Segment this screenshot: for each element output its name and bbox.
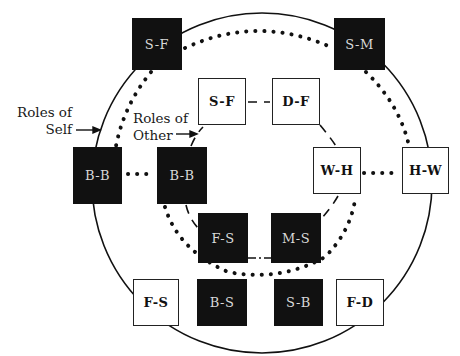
node-inner-fs: F-S — [198, 213, 248, 263]
node-label: D-F — [282, 94, 310, 109]
label-other-line2: Other — [133, 127, 188, 144]
node-label: F-S — [211, 231, 234, 246]
node-label: B-B — [169, 168, 194, 183]
node-outer-sm: S-M — [334, 18, 385, 70]
node-label: S-M — [345, 37, 374, 52]
node-label: B-S — [210, 295, 235, 310]
node-outer-hw: H-W — [402, 147, 449, 194]
node-label: S-F — [145, 37, 169, 52]
node-outer-sf: S-F — [132, 18, 182, 70]
node-inner-wh: W-H — [313, 147, 361, 194]
node-label: S-F — [209, 94, 235, 109]
label-other-line1: Roles of — [133, 110, 188, 127]
label-self-line2: Self — [12, 121, 72, 138]
label-self-line1: Roles of — [12, 104, 72, 121]
node-outer-sb: S-B — [274, 279, 323, 326]
arrow-self-icon — [93, 127, 100, 133]
node-outer-bb: B-B — [73, 147, 122, 204]
node-inner-bb: B-B — [157, 147, 207, 204]
node-label: H-W — [409, 163, 442, 178]
node-inner-sf: S-F — [198, 78, 246, 125]
node-inner-df: D-F — [272, 78, 320, 125]
node-outer-fd: F-D — [336, 279, 384, 326]
label-roles-of-other: Roles of Other — [133, 110, 188, 144]
role-diagram: Roles of Self Roles of Other S-F S-M H-W… — [0, 0, 460, 356]
node-label: B-B — [85, 168, 110, 183]
node-outer-bs: B-S — [197, 279, 247, 326]
node-label: W-H — [320, 163, 353, 178]
node-label: S-B — [286, 295, 311, 310]
node-label: F-D — [347, 295, 374, 310]
node-label: F-S — [144, 295, 169, 310]
node-inner-ms: M-S — [271, 213, 321, 263]
node-label: M-S — [282, 231, 310, 246]
node-outer-fs: F-S — [133, 279, 179, 326]
label-roles-of-self: Roles of Self — [12, 104, 72, 138]
arrow-other-icon — [190, 131, 197, 137]
